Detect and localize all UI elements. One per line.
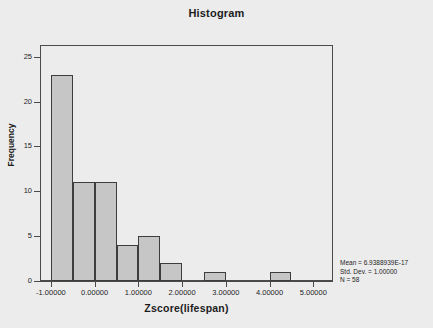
y-axis-tick — [34, 281, 40, 282]
y-axis-tick-label: 10 — [0, 186, 32, 195]
histogram-bar — [270, 272, 292, 281]
histogram-bar — [138, 236, 160, 281]
y-axis-tick-label: 0 — [0, 276, 32, 285]
chart-title: Histogram — [0, 7, 433, 19]
x-axis-tick-label: 5.00000 — [300, 288, 327, 297]
histogram-bar — [117, 245, 139, 281]
histogram-bar — [204, 272, 226, 281]
bars-layer — [40, 45, 333, 281]
stat-n: N = 58 — [340, 276, 408, 285]
x-axis-tick-label: -1.00000 — [36, 288, 66, 297]
stat-std-dev: Std. Dev. = 1.00000 — [340, 268, 408, 277]
y-axis-tick — [34, 57, 40, 58]
x-axis-tick — [270, 281, 271, 287]
x-axis-tick — [138, 281, 139, 287]
y-axis-tick-label: 15 — [0, 141, 32, 150]
x-axis-tick — [226, 281, 227, 287]
y-axis-line — [40, 45, 41, 281]
x-axis-title: Zscore(lifespan) — [40, 302, 333, 314]
histogram-bar — [160, 263, 182, 281]
statistics-annotation: Mean = 6.9388939E-17 Std. Dev. = 1.00000… — [340, 259, 408, 285]
x-axis-tick-label: 1.00000 — [125, 288, 152, 297]
histogram-figure: Histogram 0510152025-1.000000.000001.000… — [0, 0, 433, 328]
x-axis-tick — [182, 281, 183, 287]
x-axis-tick-label: 3.00000 — [212, 288, 239, 297]
histogram-bar — [95, 182, 117, 281]
stat-mean: Mean = 6.9388939E-17 — [340, 259, 408, 268]
y-axis-tick-label: 25 — [0, 52, 32, 61]
x-axis-tick-label: 2.00000 — [169, 288, 196, 297]
y-axis-tick-label: 5 — [0, 231, 32, 240]
histogram-bar — [73, 182, 95, 281]
y-axis-tick — [34, 146, 40, 147]
x-axis-line — [40, 281, 333, 282]
histogram-bar — [51, 75, 73, 281]
x-axis-tick-label: 4.00000 — [256, 288, 283, 297]
y-axis-tick-label: 20 — [0, 97, 32, 106]
y-axis-tick — [34, 191, 40, 192]
x-axis-tick — [313, 281, 314, 287]
y-axis-tick — [34, 102, 40, 103]
x-axis-tick-label: 0.00000 — [81, 288, 108, 297]
y-axis-tick — [34, 236, 40, 237]
y-axis-title: Frequency — [6, 105, 16, 185]
x-axis-tick — [95, 281, 96, 287]
x-axis-tick — [51, 281, 52, 287]
